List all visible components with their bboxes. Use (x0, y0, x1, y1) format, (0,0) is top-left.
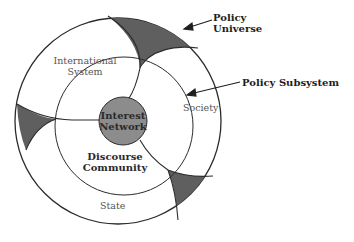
interest-network-label: Interest Network (99, 110, 147, 132)
policy-diagram: Policy Universe Policy Subsystem Interna… (0, 0, 354, 242)
policy-universe-arrowhead (184, 23, 193, 30)
state-label: State (100, 200, 125, 211)
policy-universe-label: Policy Universe (213, 12, 262, 34)
international-system-label: International System (48, 55, 122, 77)
discourse-community-label: Discourse Community (80, 151, 150, 173)
diagram-graphic (0, 0, 354, 242)
policy-universe-arrow (190, 20, 212, 27)
society-label: Society (183, 102, 218, 113)
policy-subsystem-label: Policy Subsystem (242, 77, 339, 88)
